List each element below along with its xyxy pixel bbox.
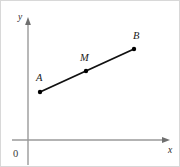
origin-label: 0 [13, 148, 18, 159]
x-axis-label: x [167, 145, 173, 155]
x-axis-arrowhead [162, 137, 170, 143]
x-axis-group: x [12, 137, 173, 155]
point-a-label: A [35, 72, 43, 83]
point-a-group: A [35, 72, 43, 94]
y-axis-group: y [17, 12, 31, 165]
point-b-group: B [132, 30, 140, 51]
coordinate-plane-svg: y x 0 A M B [0, 0, 180, 167]
point-a-dot [38, 90, 42, 94]
point-b-dot [132, 47, 136, 51]
point-b-label: B [133, 30, 140, 41]
y-axis-label: y [17, 12, 23, 22]
point-m-label: M [79, 52, 90, 63]
geometry-figure: y x 0 A M B [0, 0, 180, 167]
y-axis-arrowhead [25, 17, 31, 25]
point-m-dot [84, 69, 88, 73]
